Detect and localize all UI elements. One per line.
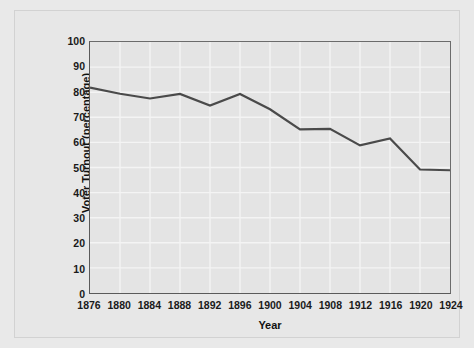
x-axis-tick-labels: 1876188018841888189218961900190419081912… (89, 299, 451, 315)
x-tick-label: 1920 (409, 299, 432, 311)
x-tick-label: 1880 (107, 299, 130, 311)
y-tick-label: 90 (51, 61, 85, 71)
y-tick-label: 100 (51, 36, 85, 46)
y-tick-label: 40 (51, 188, 85, 198)
x-tick-label: 1916 (379, 299, 402, 311)
x-tick-label: 1904 (288, 299, 311, 311)
y-tick-label: 50 (51, 163, 85, 173)
x-tick-label: 1892 (198, 299, 221, 311)
x-axis-title: Year (89, 319, 451, 331)
y-tick-label: 0 (51, 289, 85, 299)
y-tick-label: 10 (51, 264, 85, 274)
y-tick-label: 70 (51, 112, 85, 122)
y-tick-label: 80 (51, 87, 85, 97)
y-tick-label: 60 (51, 137, 85, 147)
y-tick-label: 30 (51, 213, 85, 223)
x-tick-label: 1908 (319, 299, 342, 311)
data-line-series (90, 42, 450, 293)
chart-page: Voter Turnout (percentage) 1009080706050… (0, 0, 474, 348)
x-tick-label: 1876 (77, 299, 100, 311)
x-tick-label: 1900 (258, 299, 281, 311)
x-tick-label: 1896 (228, 299, 251, 311)
y-axis-tick-labels: 1009080706050403020100 (47, 41, 85, 294)
x-tick-label: 1912 (349, 299, 372, 311)
chart-figure: Voter Turnout (percentage) 1009080706050… (14, 10, 460, 338)
x-tick-label: 1888 (168, 299, 191, 311)
plot-area (89, 41, 451, 294)
x-tick-label: 1924 (439, 299, 462, 311)
x-tick-label: 1884 (138, 299, 161, 311)
y-tick-label: 20 (51, 238, 85, 248)
